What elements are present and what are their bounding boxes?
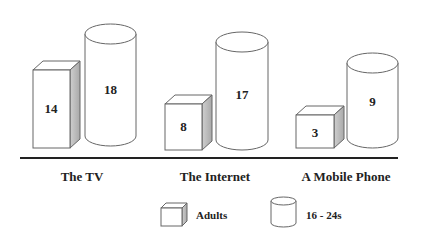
bar-cylinder-youth-mobile: 9 [347,53,398,148]
value-label-adults-tv: 14 [45,101,59,116]
value-label-youth-internet: 17 [236,87,250,102]
legend-label-youth: 16 - 24s [306,209,342,221]
bar-box-adults-mobile: 3 [296,106,344,148]
bar-box-adults-internet: 8 [165,95,212,150]
chart-canvas: 14 18 8 17 3 9 The TV The Internet A Mob… [0,0,423,249]
value-label-adults-mobile: 3 [312,125,319,140]
legend: Adults 16 - 24s [161,197,342,227]
legend-box-icon [161,203,187,226]
legend-label-adults: Adults [196,209,228,221]
legend-cylinder-icon [271,197,296,227]
bar-cylinder-youth-tv: 18 [85,24,136,146]
bar-box-adults-tv: 14 [33,61,80,148]
bar-cylinder-youth-internet: 17 [216,32,268,150]
value-label-adults-internet: 8 [180,119,187,134]
value-label-youth-mobile: 9 [369,94,376,109]
category-label-internet: The Internet [180,169,251,184]
value-label-youth-tv: 18 [104,82,118,97]
category-label-tv: The TV [61,169,104,184]
category-label-mobile: A Mobile Phone [302,169,391,184]
